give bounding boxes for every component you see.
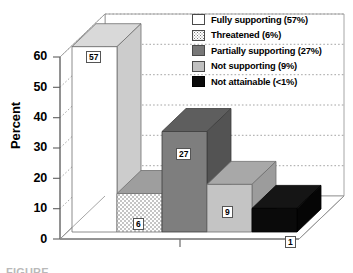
legend-label-not-attainable: Not attainable (<1%) (211, 77, 297, 87)
data-label-not-attainable: 1 (285, 236, 296, 248)
legend-item-not-supporting: Not supporting (9%) (192, 59, 350, 75)
data-label-not-supporting: 9 (222, 206, 233, 218)
y-tick-0: 0 (21, 233, 47, 245)
legend-label-fully-supporting: Fully supporting (57%) (211, 15, 308, 25)
legend-label-partially-supporting: Partially supporting (27%) (211, 46, 322, 56)
data-label-fully-supporting: 57 (86, 51, 101, 63)
legend-item-partially-supporting: Partially supporting (27%) (192, 43, 350, 59)
y-tick-40: 40 (21, 111, 47, 123)
y-axis-label: Percent (8, 90, 23, 162)
legend-item-threatened: Threatened (6%) (192, 28, 350, 44)
legend-label-not-supporting: Not supporting (9%) (211, 61, 297, 71)
legend-swatch-fully-supporting (192, 14, 205, 25)
y-tick-10: 10 (21, 202, 47, 214)
legend-item-not-attainable: Not attainable (<1%) (192, 74, 350, 90)
data-label-threatened: 6 (133, 218, 144, 230)
y-tick-50: 50 (21, 81, 47, 93)
bar-chart: 60 50 40 30 20 10 0 Percent 57 6 27 9 1 … (0, 0, 353, 273)
y-axis (53, 57, 60, 239)
legend-swatch-partially-supporting (192, 45, 205, 56)
y-tick-20: 20 (21, 172, 47, 184)
legend-swatch-threatened (192, 30, 205, 41)
chart-legend: Fully supporting (57%) Threatened (6%) P… (192, 12, 350, 90)
data-label-partially-supporting: 27 (176, 148, 191, 160)
legend-swatch-not-supporting (192, 61, 205, 72)
y-tick-60: 60 (21, 50, 47, 62)
legend-item-fully-supporting: Fully supporting (57%) (192, 12, 350, 28)
legend-swatch-not-attainable (192, 76, 205, 87)
x-axis (60, 239, 299, 247)
figure-caption: FIGURE (6, 266, 49, 273)
legend-label-threatened: Threatened (6%) (211, 30, 281, 40)
y-tick-30: 30 (21, 141, 47, 153)
